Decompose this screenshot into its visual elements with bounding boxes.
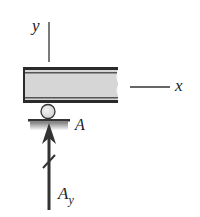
- support-plate: [28, 119, 70, 122]
- force-label: Ay: [57, 184, 74, 207]
- beam: [23, 67, 119, 103]
- x-axis-label: x: [174, 76, 183, 95]
- roller-support: A: [28, 105, 85, 134]
- reaction-force-arrow: [42, 123, 56, 210]
- free-body-diagram: y x A Ay: [0, 0, 200, 217]
- roller-icon: [41, 105, 55, 119]
- y-axis-label: y: [30, 16, 40, 35]
- force-label-subscript: y: [67, 193, 74, 207]
- force-label-main: A: [57, 184, 69, 203]
- y-axis: y: [30, 16, 49, 62]
- x-axis: x: [130, 76, 183, 95]
- point-label-a: A: [74, 116, 85, 133]
